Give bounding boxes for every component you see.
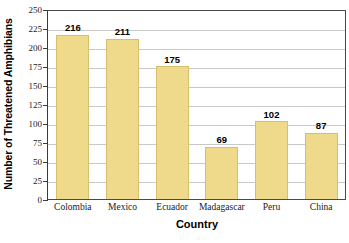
bar-value-label: 69 — [205, 135, 238, 145]
bar-group[interactable]: 102 — [255, 11, 288, 199]
y-axis-title: Number of Threatened Amphibians — [0, 0, 16, 208]
x-axis-tick-label: Ecuador — [147, 202, 197, 212]
bar-group[interactable]: 87 — [305, 11, 338, 199]
bar-value-label: 175 — [156, 55, 189, 65]
y-axis-tick-label: 150 — [29, 82, 43, 91]
y-axis-tick-label: 125 — [29, 101, 43, 110]
bar[interactable] — [106, 39, 139, 199]
y-axis-tick-label: 100 — [29, 120, 43, 129]
bar[interactable] — [205, 147, 238, 199]
y-axis-tick-label: 175 — [29, 63, 43, 72]
plot-area: 2162111756910287 — [48, 10, 346, 200]
bar[interactable] — [156, 66, 189, 199]
bar-value-label: 102 — [255, 110, 288, 120]
y-axis-tick-label: 0 — [38, 196, 43, 205]
bar-group[interactable]: 69 — [205, 11, 238, 199]
x-axis-tick-label: Peru — [247, 202, 297, 212]
y-axis-tick-mark — [43, 200, 48, 201]
y-axis-tick-label: 50 — [33, 158, 42, 167]
bar-value-label: 216 — [56, 23, 89, 33]
y-axis-tick-label: 225 — [29, 25, 43, 34]
y-axis-tick-label: 200 — [29, 44, 43, 53]
y-axis-tick-label: 75 — [33, 139, 42, 148]
x-axis-tick-label: Mexico — [98, 202, 148, 212]
y-axis-tick-label: 25 — [33, 177, 42, 186]
bar-group[interactable]: 175 — [156, 11, 189, 199]
x-axis-tick-labels: ColombiaMexicoEcuadorMadagascarPeruChina — [48, 202, 346, 218]
x-axis-tick-label: Madagascar — [197, 202, 247, 212]
y-axis-tick-labels: 0255075100125150175200225250 — [16, 0, 44, 200]
bar[interactable] — [305, 133, 338, 199]
x-axis-title: Country — [48, 218, 346, 230]
bar-value-label: 211 — [106, 27, 139, 37]
bar[interactable] — [255, 121, 288, 199]
y-axis-tick-label: 250 — [29, 6, 43, 15]
x-axis-tick-label: China — [296, 202, 346, 212]
y-axis-title-text: Number of Threatened Amphibians — [2, 18, 14, 190]
bar-value-label: 87 — [305, 121, 338, 131]
bar-group[interactable]: 216 — [56, 11, 89, 199]
x-axis-tick-label: Colombia — [48, 202, 98, 212]
bar-chart: Number of Threatened Amphibians 02550751… — [0, 0, 349, 243]
bar[interactable] — [56, 35, 89, 199]
bar-group[interactable]: 211 — [106, 11, 139, 199]
bars-layer: 2162111756910287 — [48, 11, 345, 199]
